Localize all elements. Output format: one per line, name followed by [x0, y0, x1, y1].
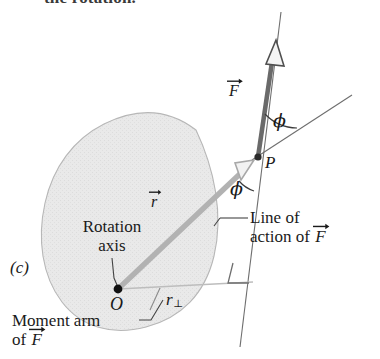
line-of-action-label: Line of action of F — [250, 208, 327, 247]
right-angle-marker — [228, 263, 249, 283]
moment-arm-line-1: Moment arm — [12, 311, 100, 330]
moment-arm-prefix: of — [12, 330, 26, 349]
point-p-dot — [254, 153, 261, 160]
force-vector-label: F — [228, 82, 240, 100]
moment-arm-letter: r — [166, 290, 173, 309]
perpendicular-subscript: ⊥ — [173, 298, 183, 309]
figure-canvas — [0, 0, 380, 359]
point-p-label: P — [265, 153, 275, 172]
force-vector-letter: F — [229, 82, 239, 99]
r-vector-symbol: r — [150, 193, 158, 211]
r-vector-letter: r — [151, 193, 157, 210]
moment-arm-line-2: of F — [12, 330, 100, 349]
angle-label-upper: ϕ — [273, 110, 286, 131]
point-o-label: O — [110, 294, 123, 314]
point-o-dot — [114, 285, 123, 294]
moment-arm-force-letter: F — [31, 330, 41, 349]
line-of-action-prefix: action of — [250, 227, 310, 246]
torque-figure: the rotation. — [0, 0, 380, 359]
moment-arm-symbol-label: r⊥ — [166, 290, 183, 310]
line-of-action-line-1: Line of — [250, 208, 327, 227]
line-of-action-line-2: action of F — [250, 227, 327, 246]
rotation-axis-label: Rotation axis — [62, 217, 162, 256]
angle-label-lower: ϕ — [230, 178, 243, 199]
force-vector-arrowhead — [266, 40, 284, 66]
panel-label: (c) — [10, 258, 29, 277]
force-vector-symbol: F — [228, 82, 240, 100]
moment-arm-label: Moment arm of F — [12, 311, 100, 350]
r-vector-label: r — [150, 193, 158, 211]
moment-arm-force-symbol: F — [30, 330, 42, 349]
line-of-action-force-symbol: F — [314, 227, 326, 246]
line-of-action-force-letter: F — [315, 227, 325, 246]
rotation-axis-line-2: axis — [62, 236, 162, 255]
rotation-axis-line-1: Rotation — [62, 217, 162, 236]
